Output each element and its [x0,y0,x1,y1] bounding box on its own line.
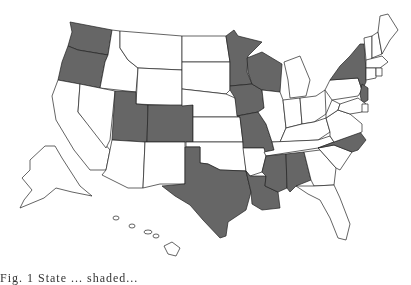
state-CT [366,68,376,80]
hawaii-island-3 [153,234,159,238]
state-IN [283,98,302,128]
state-CO [147,105,193,142]
state-HI [113,216,180,256]
states-layer [52,14,398,240]
hawaii-island-4 [164,242,180,256]
state-MS [262,154,287,192]
state-DE [362,104,368,112]
state-SD [182,62,230,94]
hawaii-island-1 [129,224,135,228]
state-WY [136,68,182,106]
caption: Fig. 1 State ... shaded... [0,271,411,285]
state-ND [182,36,230,62]
hawaii-island-0 [113,216,119,220]
state-MI [284,56,310,98]
state-AZ [102,140,145,188]
state-NM [143,142,185,188]
hawaii-island-2 [144,230,152,234]
state-PA [325,78,362,100]
state-FL [296,185,350,240]
state-RI [376,68,382,76]
state-KS [193,117,243,142]
state-ME [378,14,398,54]
